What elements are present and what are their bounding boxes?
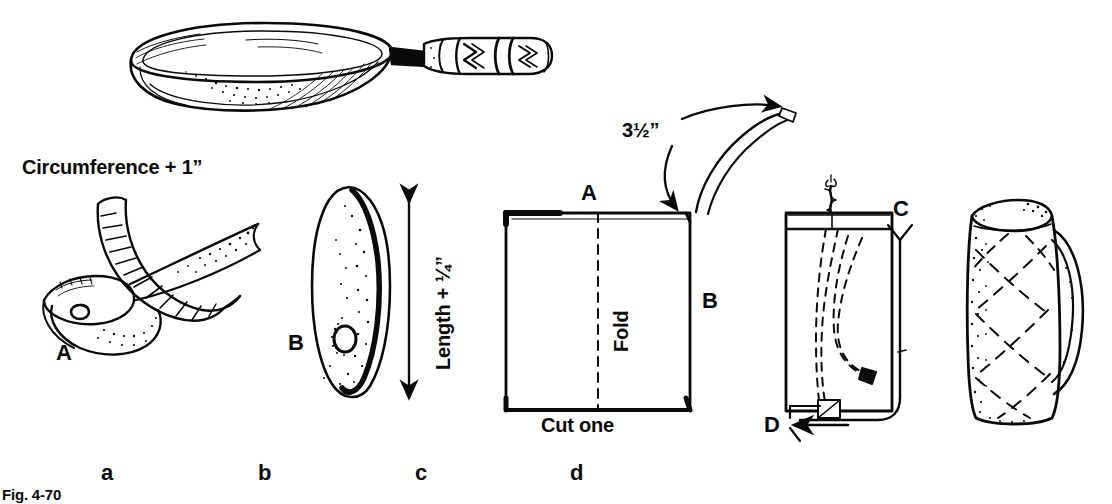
- handle-length-callout: [665, 105, 796, 214]
- panel-letter-a: a: [101, 460, 113, 486]
- circumference-label: Circumference + 1”: [22, 156, 202, 179]
- point-a-label-panel-a: A: [56, 340, 72, 366]
- panel-b-artwork: [312, 187, 409, 397]
- panel-letter-b: b: [258, 460, 271, 486]
- figure-caption: Fig. 4-70: [2, 486, 61, 503]
- cut-one-label: Cut one: [541, 414, 614, 437]
- panel-letter-d: d: [570, 460, 583, 486]
- panel-c-artwork: [506, 213, 690, 410]
- point-c-label-panel-d: C: [893, 196, 909, 222]
- point-b-label-panel-b: B: [288, 330, 304, 356]
- frying-pan-icon: [131, 23, 552, 111]
- fold-label: Fold: [610, 311, 633, 352]
- finished-cover-artwork: [967, 200, 1083, 424]
- length-label: Length + ¼”: [432, 256, 455, 370]
- figure-container: Circumference + 1” A B Length + ¼” A B F…: [0, 0, 1112, 504]
- point-d-label-panel-d: D: [764, 412, 780, 438]
- point-b-label-panel-c: B: [702, 288, 718, 314]
- panel-letter-c: c: [415, 460, 427, 486]
- handle-length-label: 3½”: [622, 119, 659, 142]
- panel-a-artwork: [43, 197, 260, 354]
- point-a-label-panel-c: A: [581, 180, 597, 206]
